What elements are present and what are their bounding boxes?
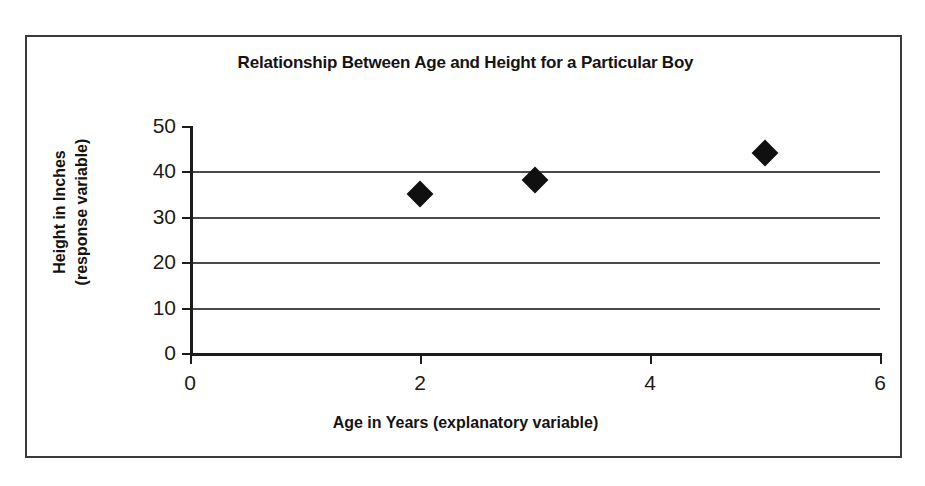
x-axis-tick [650,353,652,364]
x-axis-tick-label: 2 [414,371,426,395]
y-axis-tick [182,171,193,173]
x-axis-line [190,353,880,356]
y-axis-tick [182,308,193,310]
data-point-marker [407,181,434,208]
chart-title: Relationship Between Age and Height for … [27,53,904,73]
x-axis-tick-label: 0 [184,371,196,395]
y-axis-tick [182,126,193,128]
y-axis-tick-label: 50 [153,114,176,138]
y-axis-title-line-2: (response variable) [71,87,93,337]
x-axis-tick-label: 4 [644,371,656,395]
y-axis-line [190,126,193,353]
y-axis-tick [182,262,193,264]
gridline [190,262,880,264]
y-axis-tick [182,217,193,219]
y-axis-tick-label: 10 [153,296,176,320]
x-axis-tick [420,353,422,364]
gridline [190,217,880,219]
y-axis-tick-label: 0 [164,341,176,365]
gridline [190,308,880,310]
x-axis-tick [190,353,192,364]
y-axis-tick-label: 20 [153,250,176,274]
y-axis-tick-label: 30 [153,205,176,229]
y-axis-title: Height in Inches (response variable) [49,87,95,337]
x-axis-tick [880,353,882,364]
data-point-marker [752,140,779,167]
y-axis-tick-label: 40 [153,159,176,183]
plot-area: 01020304050 0246 [190,126,880,353]
figure-frame: Relationship Between Age and Height for … [25,35,902,458]
x-axis-tick-label: 6 [874,371,886,395]
y-axis-title-line-1: Height in Inches [49,87,71,337]
x-axis-title: Age in Years (explanatory variable) [27,414,904,432]
